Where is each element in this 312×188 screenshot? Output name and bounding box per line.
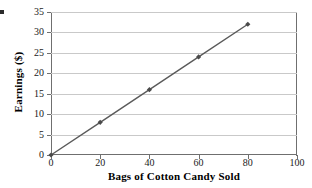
x-tick-label-80: 80 <box>233 158 263 168</box>
x-tick-label-20: 20 <box>85 158 115 168</box>
x-tick-label-0: 0 <box>36 158 66 168</box>
x-axis-title: Bags of Cotton Candy Sold <box>51 170 297 182</box>
y-axis-title: Earnings ($) <box>12 27 24 137</box>
data-series-line <box>51 12 297 155</box>
y-tick-label-35: 35 <box>20 7 44 17</box>
chart-screenshot: 05101520253035 020406080100 Earnings ($)… <box>0 0 312 188</box>
scan-artifact-speck <box>0 10 4 14</box>
x-tick-label-60: 60 <box>184 158 214 168</box>
x-tick-label-100: 100 <box>282 158 312 168</box>
x-tick-label-40: 40 <box>134 158 164 168</box>
